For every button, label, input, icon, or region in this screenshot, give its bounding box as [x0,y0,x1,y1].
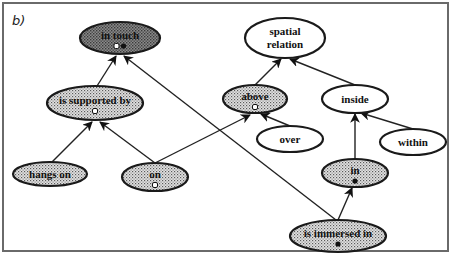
filled-marker-icon [121,43,126,48]
node-label: spatial [269,25,300,37]
node-above: above [223,85,287,113]
node-is-immersed-in: is immersed in [290,220,386,252]
open-marker-icon [253,105,258,110]
relation-diagram: b) in touchis supported byhangs ononspat… [0,0,454,255]
open-marker-icon [153,183,158,188]
node-inside: inside [322,85,388,113]
node-label: on [149,168,161,180]
node-over: over [257,126,323,152]
node-label: above [241,90,269,102]
node-label: inside [341,93,369,105]
node-label: is immersed in [304,227,372,239]
node-label: is supported by [59,94,132,106]
node-in: in [322,159,388,187]
node-within: within [380,129,446,155]
open-marker-icon [114,44,119,49]
node-spatial-relation: spatialrelation [245,18,325,58]
node-label: relation [267,38,303,50]
node-hangs-on: hangs on [13,162,87,186]
filled-marker-icon [335,241,340,246]
node-in-touch: in touch [80,22,160,54]
node-label: within [398,136,428,148]
node-is-supported-by: is supported by [47,86,143,120]
node-label: over [280,133,301,145]
filled-marker-icon [352,178,357,183]
node-label: in [350,164,359,176]
node-label: hangs on [29,168,71,180]
panel-label: b) [12,13,25,28]
node-label: in touch [101,29,139,41]
open-marker-icon [93,109,98,114]
node-on: on [122,163,188,191]
